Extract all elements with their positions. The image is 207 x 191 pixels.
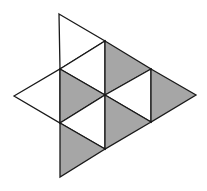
shaded-triangle bbox=[151, 69, 196, 122]
triangle-net-diagram bbox=[0, 0, 207, 191]
unshaded-triangle bbox=[14, 69, 60, 123]
